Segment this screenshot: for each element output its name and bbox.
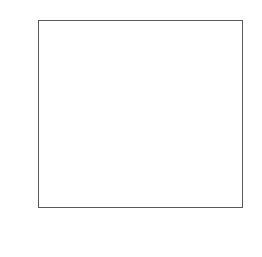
figure-canvas xyxy=(0,0,262,257)
plot-area-frame xyxy=(38,20,243,208)
